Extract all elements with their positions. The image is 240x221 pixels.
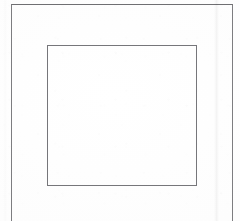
inner-border-rectangle	[47, 45, 197, 186]
left-gutter-streak-artifact	[3, 0, 7, 221]
scanned-page	[0, 0, 240, 221]
